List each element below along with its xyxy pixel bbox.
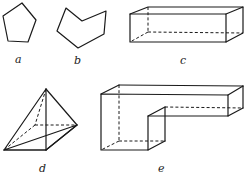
label-d: d [39,162,46,175]
label-e: e [158,162,165,175]
label-b: b [74,54,81,67]
shape-e-l-prism [101,85,243,150]
shape-a-pentagon [3,3,36,42]
shape-d-pyramid [4,89,77,150]
shapes-diagram: a b c d [0,0,246,177]
shape-c-box [130,7,243,42]
label-a: a [15,53,22,66]
label-c: c [180,54,186,67]
shape-b-concave-hexagon [57,8,106,48]
